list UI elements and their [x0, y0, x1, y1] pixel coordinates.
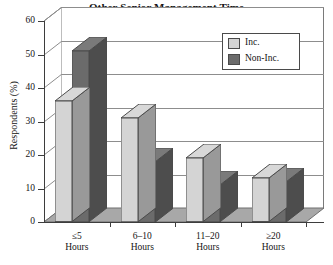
y-tick — [38, 189, 44, 190]
bar-shape — [252, 164, 287, 222]
x-category-line: Hours — [40, 242, 114, 253]
y-tick-label: 30 — [0, 116, 35, 126]
x-category-line: Hours — [105, 242, 179, 253]
x-category-line: Hours — [236, 242, 310, 253]
bar-inc- — [55, 87, 90, 222]
gridline-connector — [44, 7, 67, 22]
y-tick-label: 0 — [0, 216, 35, 226]
x-category-line: 6–10 — [105, 231, 179, 242]
bar-inc- — [186, 144, 221, 222]
y-tick-label: 40 — [0, 82, 35, 92]
y-tick-label: 60 — [0, 15, 35, 25]
legend-swatch-icon — [228, 38, 240, 49]
gridline-connector — [44, 41, 67, 56]
legend-label: Non-Inc. — [245, 53, 279, 63]
x-category-label: ≤5Hours — [40, 231, 114, 252]
x-tick — [110, 222, 111, 227]
y-tick-label: 50 — [0, 49, 35, 59]
y-tick — [38, 88, 44, 89]
bar-shape — [55, 87, 90, 222]
x-category-line: 11–20 — [171, 231, 245, 242]
y-tick-label: 10 — [0, 183, 35, 193]
x-category-line: ≤5 — [40, 231, 114, 242]
bar-inc- — [252, 164, 287, 222]
bar-shape — [186, 144, 221, 222]
x-category-line: ≥20 — [236, 231, 310, 242]
gridline — [62, 7, 324, 8]
y-tick — [38, 155, 44, 156]
x-tick — [306, 222, 307, 227]
y-tick — [38, 21, 44, 22]
x-tick — [175, 222, 176, 227]
x-tick — [241, 222, 242, 227]
x-category-line: Hours — [171, 242, 245, 253]
legend-swatch-icon — [228, 54, 240, 65]
x-axis-line — [44, 222, 324, 223]
bar-inc- — [121, 104, 156, 222]
legend-label: Inc. — [245, 37, 260, 47]
y-axis-line — [44, 21, 45, 222]
chart-container: Other Senior Management Time Respondents… — [0, 0, 333, 265]
chart-legend: Inc.Non-Inc. — [222, 33, 300, 70]
y-tick-label: 20 — [0, 149, 35, 159]
bar-shape — [121, 104, 156, 222]
y-tick — [38, 122, 44, 123]
y-tick — [38, 55, 44, 56]
x-category-label: 6–10Hours — [105, 231, 179, 252]
x-category-label: ≥20Hours — [236, 231, 310, 252]
x-category-label: 11–20Hours — [171, 231, 245, 252]
y-tick — [38, 222, 44, 223]
